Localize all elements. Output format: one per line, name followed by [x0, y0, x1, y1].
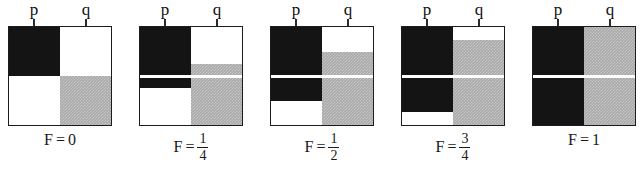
panel-1: pqF=14	[131, 0, 251, 180]
fraction-denominator: 4	[197, 148, 208, 163]
tick-mark-q-icon	[478, 19, 480, 26]
panel-3: pqF=34	[393, 0, 513, 180]
allele-p-block	[140, 27, 191, 88]
tick-mark-q-icon	[85, 19, 87, 26]
allele-q-block	[191, 64, 242, 125]
caption-fraction: 12	[328, 132, 339, 163]
tick-mark-q-icon	[609, 19, 611, 26]
figure-panel-row: pqF=0pqF=14pqF=12pqF=34pqF=1	[0, 0, 644, 180]
tick-mark-p-icon	[426, 19, 428, 26]
panel-header: pq	[401, 0, 505, 26]
fraction-numerator: 1	[328, 132, 339, 148]
allele-q-block	[322, 52, 373, 126]
allele-p-block	[271, 27, 322, 101]
column-p	[9, 27, 60, 125]
panel-header: pq	[270, 0, 374, 26]
midline-separator	[402, 75, 504, 78]
caption-value: 1	[592, 131, 600, 149]
panel-caption: F=12	[305, 131, 340, 162]
caption-equals: =	[316, 138, 325, 156]
midline-separator	[533, 75, 635, 78]
allele-square	[401, 26, 505, 126]
panel-header: pq	[8, 0, 112, 26]
tick-mark-p-icon	[33, 19, 35, 26]
panel-caption: F=1	[568, 131, 600, 149]
panel-caption: F=14	[174, 131, 209, 162]
caption-symbol: F	[44, 131, 53, 149]
allele-q-block	[60, 76, 111, 125]
column-q	[60, 27, 111, 125]
allele-p-block	[9, 27, 60, 76]
allele-p-block	[402, 27, 453, 112]
caption-symbol: F	[305, 138, 314, 156]
tick-mark-p-icon	[557, 19, 559, 26]
tick-mark-q-icon	[216, 19, 218, 26]
panel-2: pqF=12	[262, 0, 382, 180]
allele-square	[270, 26, 374, 126]
caption-fraction: 14	[197, 132, 208, 163]
caption-fraction: 34	[459, 132, 470, 163]
fraction-denominator: 4	[459, 148, 470, 163]
tick-mark-q-icon	[347, 19, 349, 26]
caption-symbol: F	[174, 138, 183, 156]
allele-square	[139, 26, 243, 126]
caption-equals: =	[580, 131, 589, 149]
panel-0: pqF=0	[0, 0, 120, 180]
fraction-numerator: 1	[197, 132, 208, 148]
caption-symbol: F	[568, 131, 577, 149]
allele-q-block	[453, 40, 504, 125]
midline-separator	[271, 75, 373, 78]
panel-caption: F=0	[44, 131, 76, 149]
caption-equals: =	[185, 138, 194, 156]
panel-caption: F=34	[436, 131, 471, 162]
caption-value: 0	[68, 131, 76, 149]
fraction-numerator: 3	[459, 132, 470, 148]
tick-mark-p-icon	[164, 19, 166, 26]
panel-header: pq	[139, 0, 243, 26]
caption-symbol: F	[436, 138, 445, 156]
tick-mark-p-icon	[295, 19, 297, 26]
allele-square	[532, 26, 636, 126]
caption-equals: =	[447, 138, 456, 156]
allele-square	[8, 26, 112, 126]
midline-separator	[140, 75, 242, 78]
fraction-denominator: 2	[328, 148, 339, 163]
panel-4: pqF=1	[524, 0, 644, 180]
caption-equals: =	[56, 131, 65, 149]
panel-header: pq	[532, 0, 636, 26]
